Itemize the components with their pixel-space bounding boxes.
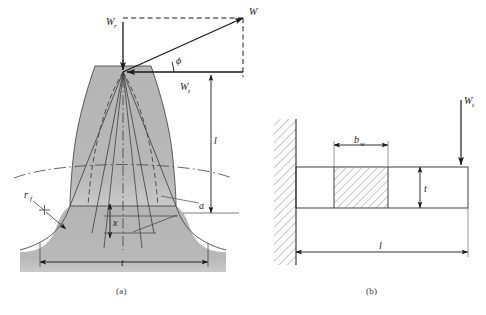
label-tangential-force-b-sub: t xyxy=(472,101,475,109)
label-moment-arm-l: l xyxy=(214,135,217,146)
label-face-width-bw: b w xyxy=(354,134,365,148)
label-radial-force-sub: r xyxy=(114,22,117,30)
support-wall-hatch xyxy=(274,119,296,265)
label-resultant-force: W xyxy=(249,6,259,17)
label-addendum-a: a xyxy=(199,200,204,211)
label-parabola-x: x xyxy=(112,217,118,228)
label-fillet-radius-sub: f xyxy=(30,195,33,203)
label-tangential-force-a: W t xyxy=(180,81,191,95)
panel-a-group: W W r W t ϕ l a x t r xyxy=(14,6,259,272)
label-beam-length-l: l xyxy=(379,240,382,251)
panel-b-group: b w t l W t xyxy=(274,95,475,265)
resultant-force-vector xyxy=(123,18,243,72)
label-beam-thickness-t: t xyxy=(424,183,427,194)
label-face-width-bw-base: b xyxy=(354,134,359,145)
label-tangential-force-b: W t xyxy=(464,95,475,109)
label-fillet-radius-base: r xyxy=(24,189,28,200)
label-tangential-force-a-sub: t xyxy=(188,87,191,95)
gear-tooth-lewis-figure: W W r W t ϕ l a x t r xyxy=(0,0,486,315)
pressure-angle-arc xyxy=(172,62,174,72)
fillet-radius-leader xyxy=(33,201,44,210)
beam-section-hatch xyxy=(334,167,388,208)
label-face-width-bw-sub: w xyxy=(360,140,365,148)
caption-panel-b: (b) xyxy=(366,286,377,296)
caption-panel-a: (a) xyxy=(116,286,127,296)
label-radial-force: W r xyxy=(106,16,117,30)
label-tooth-thickness-t: t xyxy=(121,257,124,268)
label-pressure-angle: ϕ xyxy=(176,55,181,66)
